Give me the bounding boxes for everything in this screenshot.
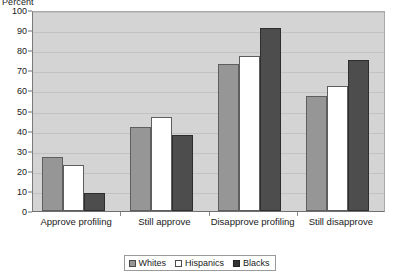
legend-swatch-icon	[128, 260, 135, 267]
bar	[348, 60, 369, 211]
plot-area	[32, 11, 385, 212]
bar	[84, 193, 105, 211]
x-axis-category-label: Approve profiling	[32, 216, 120, 227]
legend-item: Whites	[128, 258, 166, 268]
bar	[239, 56, 260, 211]
bar	[260, 28, 281, 211]
y-axis-tick-label: 10	[17, 187, 27, 197]
bar-chart: Percent 0102030405060708090100 Approve p…	[0, 0, 399, 274]
y-axis-tick-label: 0	[22, 207, 27, 217]
bar	[327, 86, 348, 211]
y-axis-tick-label: 40	[17, 127, 27, 137]
bar	[151, 117, 172, 211]
legend-label: Whites	[138, 258, 166, 268]
x-axis-tick	[297, 212, 298, 216]
y-axis-tick-label: 80	[17, 46, 27, 56]
bars-layer	[33, 12, 384, 211]
x-axis-category-labels: Approve profilingStill approveDisapprove…	[32, 216, 385, 250]
legend-label: Hispanics	[185, 258, 224, 268]
bar	[172, 135, 193, 211]
chart-legend: WhitesHispanicsBlacks	[123, 255, 275, 271]
x-axis-tick	[120, 212, 121, 216]
y-axis-tick-label: 100	[12, 6, 27, 16]
y-axis-tick-label: 30	[17, 147, 27, 157]
y-axis-tick-label: 70	[17, 66, 27, 76]
legend-label: Blacks	[243, 258, 270, 268]
y-axis: 0102030405060708090100	[0, 11, 32, 212]
bar	[306, 96, 327, 211]
x-axis-category-label: Still disapprove	[297, 216, 385, 227]
legend-item: Blacks	[233, 258, 270, 268]
y-axis-tick-label: 20	[17, 167, 27, 177]
y-axis-tick-label: 50	[17, 107, 27, 117]
y-axis-tick-label: 60	[17, 86, 27, 96]
x-axis-category-label: Still approve	[120, 216, 208, 227]
legend-swatch-icon	[233, 260, 240, 267]
y-axis-tick-label: 90	[17, 26, 27, 36]
bar	[130, 127, 151, 211]
x-axis-category-label: Disapprove profiling	[209, 216, 297, 227]
legend-item: Hispanics	[175, 258, 224, 268]
x-axis-tick	[209, 212, 210, 216]
bar	[42, 157, 63, 211]
bar	[218, 64, 239, 211]
bar	[63, 165, 84, 211]
legend-swatch-icon	[175, 260, 182, 267]
